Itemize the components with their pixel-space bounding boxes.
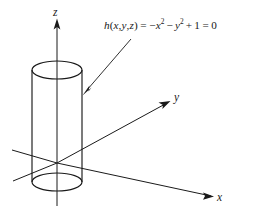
x-axis-arrowhead bbox=[203, 193, 214, 200]
y-axis-arrowhead bbox=[159, 101, 171, 109]
x-axis-label: x bbox=[216, 191, 223, 203]
y-axis-label: y bbox=[173, 91, 180, 104]
cylinder-top-ellipse bbox=[32, 61, 82, 79]
cylinder-bottom-ellipse bbox=[32, 173, 82, 191]
equation-leader-line bbox=[87, 39, 131, 90]
x-axis-negative-segment bbox=[12, 150, 57, 163]
y-axis-positive-segment bbox=[57, 103, 167, 163]
cylinder-constraint-figure: x y z bbox=[0, 0, 273, 216]
z-axis-label: z bbox=[52, 6, 58, 18]
